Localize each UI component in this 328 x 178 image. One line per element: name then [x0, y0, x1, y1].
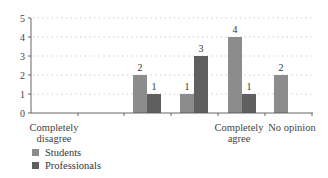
legend-item-professionals: Professionals — [32, 159, 101, 172]
x-label-no-opinion: No opinion — [268, 122, 316, 133]
bar-professionals-3 — [194, 56, 208, 113]
x-label-completely-disagree-1: Completely — [30, 122, 80, 133]
students-swatch-icon — [32, 149, 39, 156]
bar-label: 3 — [199, 43, 204, 54]
y-tick-label: 2 — [20, 70, 25, 81]
y-tick-label: 1 — [20, 89, 25, 100]
bar-label: 1 — [247, 81, 252, 92]
bar-students-5 — [274, 75, 288, 113]
professionals-swatch-icon — [32, 162, 39, 169]
bar-students-4 — [228, 37, 242, 113]
bar-professionals-4 — [242, 94, 256, 113]
bar-label: 1 — [185, 81, 190, 92]
x-label-completely-agree-2: agree — [228, 133, 251, 144]
y-tick-label: 0 — [20, 108, 25, 119]
legend-label-students: Students — [45, 147, 81, 158]
legend-label-professionals: Professionals — [45, 160, 101, 171]
bar-label: 4 — [233, 24, 238, 35]
x-label-completely-agree-1: Completely — [215, 122, 265, 133]
bar-label: 1 — [152, 81, 157, 92]
bar-professionals-2 — [147, 94, 161, 113]
legend-item-students: Students — [32, 146, 101, 159]
legend: Students Professionals — [32, 146, 101, 172]
x-label-completely-disagree-2: disagree — [37, 133, 72, 144]
bar-students-2 — [133, 75, 147, 113]
bar-label: 2 — [279, 62, 284, 73]
y-tick-label: 4 — [20, 32, 25, 43]
bar-label: 2 — [138, 62, 143, 73]
y-tick-label: 5 — [20, 13, 25, 24]
y-tick-label: 3 — [20, 51, 25, 62]
axes — [28, 18, 313, 116]
gridlines — [33, 18, 313, 94]
bar-students-3 — [180, 94, 194, 113]
